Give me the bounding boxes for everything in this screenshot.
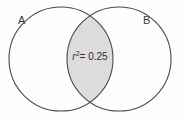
venn-diagram-figure: A B r2= 0.25 [0, 0, 181, 118]
intersection-annotation: r2= 0.25 [60, 52, 120, 62]
correlation-value: 0.25 [88, 51, 107, 62]
equals-sign: = [80, 51, 86, 62]
set-label-b: B [143, 15, 151, 26]
set-label-a: A [18, 15, 26, 26]
